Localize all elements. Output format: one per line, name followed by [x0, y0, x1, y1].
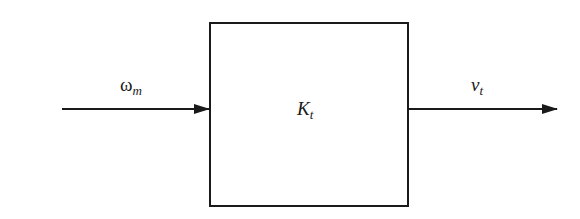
- input-subscript: m: [133, 83, 142, 98]
- input-symbol: ω: [120, 74, 133, 95]
- block-symbol: K: [297, 98, 310, 119]
- input-label: ωm: [120, 74, 142, 99]
- block-diagram: [0, 0, 580, 219]
- output-subscript: t: [479, 83, 483, 98]
- block-label: Kt: [297, 98, 313, 123]
- output-label: vt: [471, 74, 483, 99]
- block-subscript: t: [310, 107, 314, 122]
